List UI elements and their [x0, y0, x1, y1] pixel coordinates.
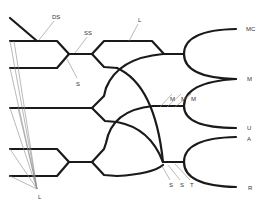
top-split-lower: [92, 54, 117, 68]
label-s2: S: [180, 182, 184, 188]
leader-s: [67, 59, 77, 78]
leader-l-top: [129, 24, 138, 41]
label-m1: M: [170, 96, 175, 102]
middle-split-upper: [92, 54, 163, 108]
label-m2: M: [181, 96, 186, 102]
label-s1: S: [169, 182, 173, 188]
top-branch-upper: [10, 41, 69, 54]
label-m3: M: [191, 96, 196, 102]
middle-split-lower: [92, 108, 117, 122]
diagonal-branch: [10, 18, 37, 41]
label-u: U: [247, 125, 251, 131]
label-ss: SS: [84, 30, 92, 36]
leader-ss: [75, 37, 87, 53]
label-m-right: M: [247, 76, 252, 82]
label-ds: DS: [52, 14, 60, 20]
top-branch-lower: [10, 54, 69, 68]
middle-arc-down: [117, 122, 163, 162]
bowl-mc-m: [184, 29, 236, 79]
leader-l-bottom: [10, 41, 37, 189]
bottom-branch-upper: [10, 149, 69, 162]
label-a: A: [247, 136, 251, 142]
label-mc: MC: [246, 26, 256, 32]
bowl-m-u: [184, 79, 236, 128]
label-r: R: [248, 185, 253, 191]
label-s-top: S: [76, 81, 80, 87]
label-l-top: L: [138, 17, 142, 23]
leader-ds: [39, 21, 54, 40]
diagram-canvas: DS SS S L L MC M U A R M M M S S T: [0, 0, 258, 206]
bottom-split-lower: [92, 162, 163, 176]
label-l-bottom: L: [38, 194, 42, 200]
bowl-a-r: [184, 137, 236, 187]
top-split-upper: [92, 41, 164, 54]
label-t: T: [190, 182, 194, 188]
bottom-branch-lower: [10, 162, 69, 176]
